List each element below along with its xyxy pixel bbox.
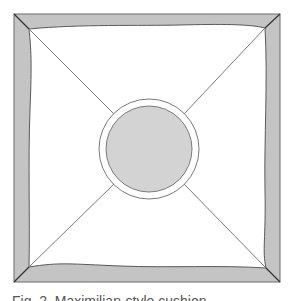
circle-center (106, 106, 192, 192)
cushion-diagram (0, 0, 303, 301)
figure-caption: Fig. 2. Maximilian-style cushion (12, 292, 302, 301)
